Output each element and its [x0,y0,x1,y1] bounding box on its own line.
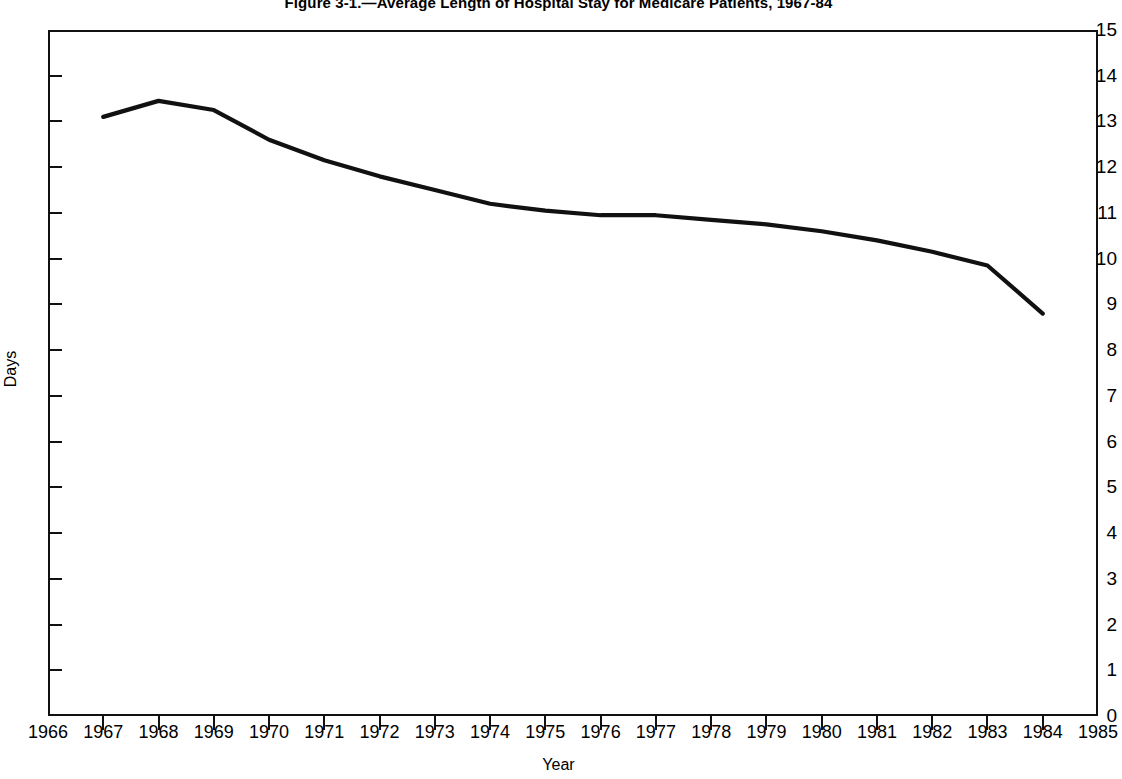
data-line-average-length-of-stay [103,101,1042,314]
